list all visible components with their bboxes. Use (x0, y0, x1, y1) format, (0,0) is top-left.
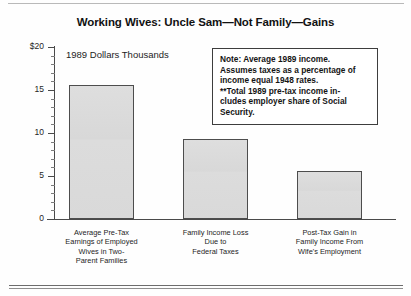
note-line-5: cludes employer share of Social (220, 96, 371, 107)
y-minor-tick (51, 193, 55, 194)
y-tick-20 (48, 47, 55, 48)
y-tick-10 (48, 133, 55, 134)
category-1-line-3: Federal Taxes (165, 247, 266, 256)
y-minor-tick (51, 150, 55, 151)
bar-post-tax-gain (297, 171, 362, 219)
y-axis-label-10: 10 (2, 127, 44, 137)
x-axis-line (47, 219, 396, 220)
category-0-line-4: Parent Families (51, 256, 152, 265)
category-2-line-3: Wife's Employment (279, 247, 380, 256)
y-minor-tick (51, 64, 55, 65)
y-axis-label-5: 5 (2, 170, 44, 180)
y-axis-label-15: 15 (2, 84, 44, 94)
y-minor-tick (51, 81, 55, 82)
page-title: Working Wives: Uncle Sam—Not Family—Gain… (0, 16, 411, 28)
y-minor-tick (51, 73, 55, 74)
y-minor-tick (51, 56, 55, 57)
category-0-line-2: Earnings of Employed (51, 237, 152, 246)
bottom-rule-upper (9, 285, 403, 286)
x-axis-category-2: Post-Tax Gain in Family Income From Wife… (279, 228, 380, 256)
bottom-rule-lower (9, 288, 403, 289)
category-2-line-2: Family Income From (279, 237, 380, 246)
y-tick-5 (48, 176, 55, 177)
bar-chart-figure: Working Wives: Uncle Sam—Not Family—Gain… (0, 0, 411, 296)
y-minor-tick (51, 167, 55, 168)
y-minor-tick (51, 185, 55, 186)
y-minor-tick (51, 124, 55, 125)
y-minor-tick (51, 99, 55, 100)
x-axis-category-0: Average Pre-Tax Earnings of Employed Wiv… (51, 228, 152, 266)
x-axis-category-1: Family Income Loss Due to Federal Taxes (165, 228, 266, 256)
y-minor-tick (51, 142, 55, 143)
bar-family-income-loss (183, 139, 248, 219)
y-axis-label-20: $20 (2, 41, 44, 51)
chart-subtitle: 1989 Dollars Thousands (66, 49, 169, 60)
note-line-1: Note: Average 1989 income. (220, 54, 371, 65)
y-minor-tick (51, 159, 55, 160)
note-box: Note: Average 1989 income. Assumes taxes… (212, 48, 378, 125)
note-line-6: Security. (220, 107, 371, 118)
y-axis-label-0: 0 (2, 213, 44, 223)
y-minor-tick (51, 107, 55, 108)
y-tick-0 (48, 219, 55, 220)
y-minor-tick (51, 210, 55, 211)
category-2-line-1: Post-Tax Gain in (279, 228, 380, 237)
y-minor-tick (51, 116, 55, 117)
note-line-3: income equal 1948 rates. (220, 75, 371, 86)
category-1-line-1: Family Income Loss (165, 228, 266, 237)
y-tick-15 (48, 90, 55, 91)
top-rule (8, 3, 404, 4)
y-minor-tick (51, 202, 55, 203)
note-line-4: **Total 1989 pre-tax income in- (220, 86, 371, 97)
category-1-line-2: Due to (165, 237, 266, 246)
category-0-line-1: Average Pre-Tax (51, 228, 152, 237)
bar-average-pre-tax-earnings (69, 85, 134, 219)
note-line-2: Assumes taxes as a percentage of (220, 65, 371, 76)
category-0-line-3: Wives in Two- (51, 247, 152, 256)
